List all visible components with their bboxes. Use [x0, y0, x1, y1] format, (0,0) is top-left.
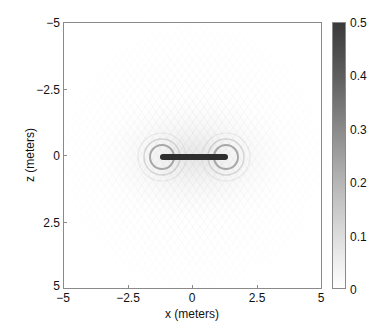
- x-tick: [128, 285, 129, 289]
- y-tick-label: 5: [20, 280, 60, 292]
- colorbar-tick-label: 0.5: [350, 17, 367, 29]
- y-tick: [63, 222, 67, 223]
- x-tick-label: −2.5: [108, 292, 148, 304]
- y-tick-label: −5: [20, 17, 60, 29]
- colorbar-tick-label: 0.1: [350, 231, 367, 243]
- y-axis-title: z (meters): [23, 115, 37, 195]
- colorbar-tick-label: 0.4: [350, 70, 367, 82]
- x-tick: [192, 285, 193, 289]
- x-axis-title: x (meters): [152, 307, 232, 321]
- x-tick-label: 0: [172, 292, 212, 304]
- colorbar-tick-label: 0.2: [350, 177, 367, 189]
- x-tick-label: −5: [43, 292, 83, 304]
- colorbar: [332, 22, 346, 289]
- colorbar-tick-label: 0.3: [350, 124, 367, 136]
- x-tick: [257, 285, 258, 289]
- colorbar-tick-label: 0: [350, 284, 357, 296]
- source-segment: [160, 154, 228, 160]
- y-tick-label: −2.5: [20, 84, 60, 96]
- x-tick-label: 2.5: [237, 292, 277, 304]
- y-tick: [63, 89, 67, 90]
- y-tick: [63, 155, 67, 156]
- y-tick: [63, 22, 67, 23]
- heatmap-image: [64, 23, 322, 289]
- y-tick-label: 2.5: [20, 217, 60, 229]
- x-tick-label: 5: [301, 292, 341, 304]
- plot-area: [63, 22, 322, 289]
